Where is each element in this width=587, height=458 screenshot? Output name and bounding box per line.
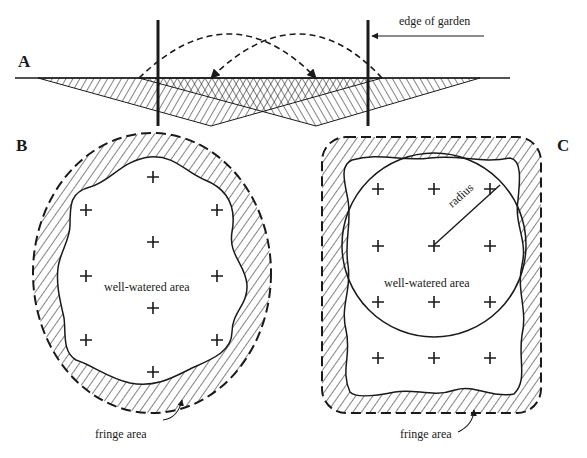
panel-b-well-watered-label: well-watered area [104, 280, 190, 295]
panel-b-letter: B [16, 136, 27, 156]
panel-c-letter: C [557, 136, 569, 156]
panel-a-letter: A [18, 52, 30, 72]
right-spray-arc [211, 34, 382, 78]
panel-c-well-watered-label: well-watered area [384, 276, 470, 291]
edge-of-garden-label: edge of garden [399, 14, 470, 29]
left-spray-arc [139, 34, 316, 78]
panel-b-single-sprinkler-pattern [33, 133, 271, 420]
panel-b-fringe-label: fringe area [95, 427, 147, 442]
panel-a-cross-section [15, 20, 510, 126]
irrigation-diagram [0, 0, 587, 458]
panel-c-fringe-label: fringe area [400, 427, 452, 442]
